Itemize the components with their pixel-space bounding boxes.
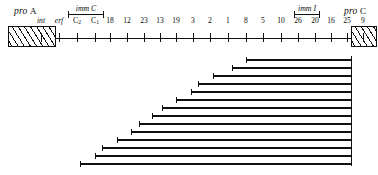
deletion-bar [232,67,351,69]
axis-tick [144,33,145,42]
deletion-bar [246,59,351,61]
axis-tick [263,33,264,42]
deletion-bar [191,91,351,93]
pro-c-box [351,26,377,47]
deletion-bar [139,123,351,125]
imm-region: imm C [68,4,104,22]
deletion-bar-left-cap [117,137,118,143]
deletion-bar [95,155,351,157]
deletion-right-terminus-line [351,56,352,166]
deletion-bar-left-cap [131,129,132,135]
deletion-bar-left-cap [152,113,153,119]
deletion-bar [176,99,351,101]
axis-tick-label: 13 [156,17,164,25]
axis-tick [110,33,111,42]
axis-tick [127,33,128,42]
axis-tick [298,33,299,42]
deletion-bar-left-cap [162,105,163,111]
axis-tick-label: 2 [208,17,212,25]
axis-tick [77,33,78,42]
imm-region-bar [294,14,320,15]
deletion-bar-left-cap [139,121,140,127]
deletion-bar-left-cap [80,161,81,167]
deletion-bar [117,139,351,141]
imm-region-bar [68,14,104,15]
imm-region-cap [319,11,320,18]
axis-tick-label: 25 [343,17,351,25]
deletion-bar [213,75,351,77]
pro-a-label-upright: A [30,6,37,16]
imm-region-cap [294,11,295,18]
axis-tick [281,33,282,42]
axis-tick [228,33,229,42]
pro-a-label-italic: pro [14,6,27,16]
axis-tick [193,33,194,42]
deletion-bar [198,83,351,85]
imm-region-cap [103,11,104,18]
deletion-bar [102,147,351,149]
pro-a-label: pro A [14,6,37,16]
deletion-map-figure: pro A pro C interfC2C1181223131932185102… [0,0,378,175]
axis-tick-label: 5 [261,17,265,25]
deletion-bar-left-cap [176,97,177,103]
axis-tick-label: 8 [244,17,248,25]
deletion-bar-left-cap [102,145,103,151]
axis-tick [315,33,316,42]
axis-tick [41,33,42,42]
axis-tick [176,33,177,42]
axis-tick-label: 3 [191,17,195,25]
deletion-bar-left-cap [191,89,192,95]
pro-a-box [8,26,56,47]
deletion-bar-left-cap [246,57,247,63]
axis-tick-label: 18 [106,17,114,25]
pro-c-label-italic: pro [344,6,357,16]
axis-tick-label: int [37,17,45,25]
deletion-bar-left-cap [95,153,96,159]
axis-tick-label: 19 [172,17,180,25]
axis-tick [95,33,96,42]
imm-region-label: imm C [76,4,97,13]
axis-tick [331,33,332,42]
axis-tick-label: 10 [277,17,285,25]
axis-tick [160,33,161,42]
axis-tick-label: 9 [361,17,365,25]
deletion-bar-left-cap [232,65,233,71]
axis-tick [210,33,211,42]
axis-tick-label: 23 [140,17,148,25]
deletion-bar [152,115,351,117]
imm-region: imm I [294,4,320,22]
axis-tick [59,33,60,42]
axis-tick-label: 1 [226,17,230,25]
pro-c-label-upright: C [360,6,366,16]
deletion-bar [162,107,351,109]
deletion-bar [131,131,351,133]
pro-c-label: pro C [344,6,366,16]
imm-region-label: imm I [298,4,316,13]
axis-tick-label: 16 [327,17,335,25]
axis-tick [246,33,247,42]
axis-tick-label: 12 [123,17,131,25]
axis-tick-label: erf [55,17,63,25]
deletion-bar [80,163,351,165]
axis-line [56,38,351,39]
deletion-bar-left-cap [213,73,214,79]
axis-tick [363,33,364,42]
imm-region-cap [68,11,69,18]
deletion-bar-left-cap [198,81,199,87]
axis-tick [347,33,348,42]
